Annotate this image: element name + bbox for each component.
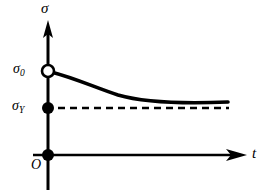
sigma-yield-point-marker xyxy=(42,102,54,114)
sigma-zero-point-marker xyxy=(42,65,54,77)
sigma-yield-label: σY xyxy=(12,99,24,113)
stress-relaxation-figure: σ t σ0 σY O xyxy=(0,0,277,194)
origin-label: O xyxy=(31,158,41,172)
sigma-zero-subscript: 0 xyxy=(20,68,25,78)
sigma-zero-label: σ0 xyxy=(13,62,25,76)
sigma-yield-subscript: Y xyxy=(19,105,24,115)
sigma-yield-symbol: σ xyxy=(12,98,19,113)
sigma-zero-symbol: σ xyxy=(13,61,20,76)
origin-point-marker xyxy=(42,149,54,161)
stress-relaxation-curve xyxy=(51,72,228,103)
figure-canvas xyxy=(0,0,277,194)
sigma-axis-label: σ xyxy=(41,1,48,16)
t-axis-label: t xyxy=(252,146,256,161)
